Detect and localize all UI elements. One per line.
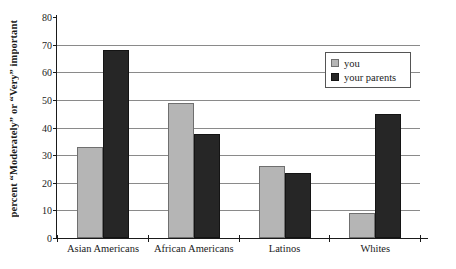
y-tick-label-80: 80: [42, 12, 52, 23]
y-tick-mark-40: [53, 128, 57, 129]
bar-latinos-your-parents: [285, 173, 311, 238]
y-tick-mark-20: [53, 183, 57, 184]
bar-african-americans-you: [168, 103, 194, 238]
y-axis-title: percent “Moderately” or “Very” important: [0, 0, 26, 238]
legend-swatch-your-parents-icon: [331, 73, 339, 81]
x-tick-mark-2: [239, 235, 240, 242]
x-tick-mark-1: [148, 235, 149, 242]
legend-item-you: you: [331, 56, 406, 70]
bar-whites-your-parents: [375, 114, 401, 238]
y-tick-mark-60: [53, 72, 57, 73]
bar-latinos-you: [259, 166, 285, 238]
legend-label-your-parents: your parents: [344, 72, 396, 83]
y-tick-label-70: 70: [42, 39, 52, 50]
x-category-label-latinos: Latinos: [269, 243, 301, 254]
x-category-label-african-americans: African Americans: [154, 243, 234, 254]
y-tick-label-30: 30: [42, 150, 52, 161]
bar-asian-americans-you: [77, 147, 103, 238]
plot-area: [57, 17, 420, 238]
bar-chart: percent “Moderately” or “Very” important…: [0, 0, 456, 269]
x-category-label-asian-americans: Asian Americans: [67, 243, 139, 254]
y-tick-label-60: 60: [42, 67, 52, 78]
y-tick-mark-70: [53, 45, 57, 46]
y-tick-mark-10: [53, 210, 57, 211]
chart-legend: you your parents: [325, 52, 411, 88]
y-tick-label-20: 20: [42, 177, 52, 188]
bar-asian-americans-your-parents: [103, 50, 129, 238]
legend-label-you: you: [344, 58, 360, 69]
x-tick-mark-end: [420, 235, 421, 242]
x-category-label-whites: Whites: [360, 243, 390, 254]
x-tick-mark-0: [57, 235, 58, 242]
bar-african-americans-your-parents: [194, 134, 220, 238]
y-tick-mark-30: [53, 155, 57, 156]
y-axis-tick-labels: 01020304050607080: [28, 17, 52, 238]
y-axis-title-text: percent “Moderately” or “Very” important: [8, 20, 19, 217]
x-tick-mark-3: [329, 235, 330, 242]
legend-swatch-you-icon: [331, 59, 339, 67]
y-tick-label-0: 0: [47, 233, 52, 244]
y-tick-mark-50: [53, 100, 57, 101]
y-tick-label-10: 10: [42, 205, 52, 216]
gridline-70: [57, 45, 420, 46]
y-tick-mark-80: [53, 17, 57, 18]
legend-item-your-parents: your parents: [331, 70, 406, 84]
y-tick-label-50: 50: [42, 94, 52, 105]
y-tick-label-40: 40: [42, 122, 52, 133]
bar-whites-you: [349, 213, 375, 238]
